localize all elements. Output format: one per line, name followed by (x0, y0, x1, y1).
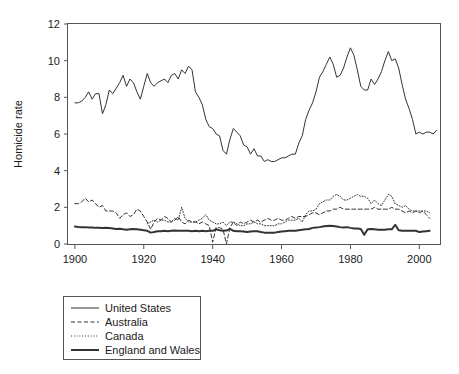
x-tick-label: 1900 (63, 253, 87, 265)
y-tick-label: 12 (48, 18, 60, 30)
y-tick-label: 0 (54, 238, 60, 250)
y-tick-label: 2 (54, 201, 60, 213)
chart-canvas: 024681012 190019201940196019802000 Homic… (0, 0, 459, 374)
y-tick-label: 6 (54, 128, 60, 140)
x-tick-label: 1980 (338, 253, 362, 265)
y-tick-label: 10 (48, 55, 60, 67)
x-tick-label: 2000 (407, 253, 431, 265)
y-tick-label: 4 (54, 165, 60, 177)
x-tick-label: 1920 (132, 253, 156, 265)
y-tick-label: 8 (54, 91, 60, 103)
legend-label-england-and-wales: England and Wales (105, 344, 200, 356)
homicide-rate-chart-figure: 024681012 190019201940196019802000 Homic… (0, 0, 459, 374)
legend-label-united-states: United States (105, 302, 172, 314)
legend-label-canada: Canada (105, 330, 144, 342)
x-tick-label: 1940 (200, 253, 224, 265)
legend-label-australia: Australia (105, 316, 149, 328)
x-tick-label: 1960 (269, 253, 293, 265)
y-axis-title: Homicide rate (12, 100, 24, 168)
